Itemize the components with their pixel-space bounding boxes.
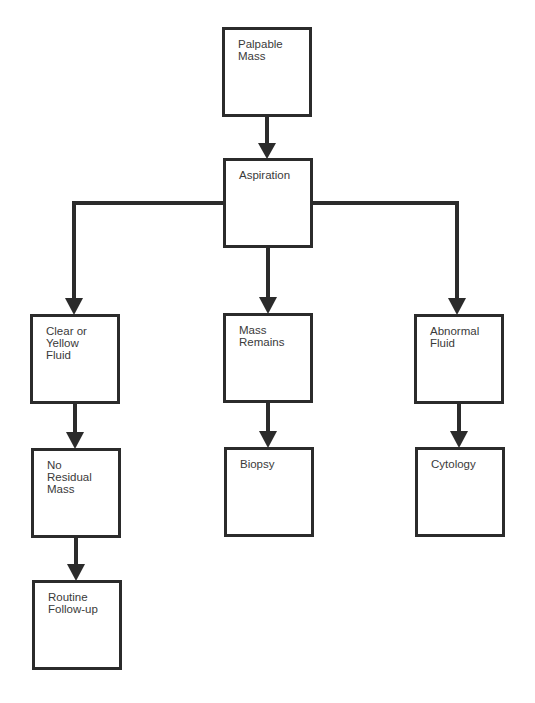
connector-aspiration-to-clear-fluid bbox=[74, 203, 223, 300]
arrowhead-icon bbox=[259, 431, 277, 448]
node-abnormal-fluid: Abnormal Fluid bbox=[414, 314, 504, 404]
node-biopsy: Biopsy bbox=[224, 447, 314, 537]
arrowhead-icon bbox=[65, 298, 83, 315]
node-aspiration: Aspiration bbox=[223, 158, 313, 248]
arrowhead-icon bbox=[67, 564, 85, 581]
node-label: Aspiration bbox=[239, 169, 310, 181]
flowchart-canvas: Palpable Mass Aspiration Clear or Yellow… bbox=[0, 0, 535, 703]
node-label: Biopsy bbox=[240, 458, 311, 470]
node-no-residual-mass: No Residual Mass bbox=[31, 448, 121, 538]
arrowhead-icon bbox=[258, 143, 276, 159]
node-label: Mass Remains bbox=[239, 324, 310, 348]
node-routine-follow-up: Routine Follow-up bbox=[32, 580, 122, 670]
arrowhead-icon bbox=[448, 298, 466, 315]
node-cytology: Cytology bbox=[415, 447, 505, 537]
arrowhead-icon bbox=[259, 297, 277, 314]
node-label: Palpable Mass bbox=[238, 38, 309, 62]
arrowhead-icon bbox=[66, 432, 84, 449]
node-label: Routine Follow-up bbox=[48, 591, 119, 615]
node-clear-yellow-fluid: Clear or Yellow Fluid bbox=[30, 314, 120, 404]
connector-aspiration-to-abnormal-fluid bbox=[312, 203, 457, 300]
node-label: Cytology bbox=[431, 458, 502, 470]
arrowhead-icon bbox=[450, 431, 468, 448]
node-palpable-mass: Palpable Mass bbox=[222, 27, 312, 117]
node-label: Clear or Yellow Fluid bbox=[46, 325, 117, 361]
node-label: Abnormal Fluid bbox=[430, 325, 501, 349]
node-label: No Residual Mass bbox=[47, 459, 118, 495]
node-mass-remains: Mass Remains bbox=[223, 313, 313, 403]
